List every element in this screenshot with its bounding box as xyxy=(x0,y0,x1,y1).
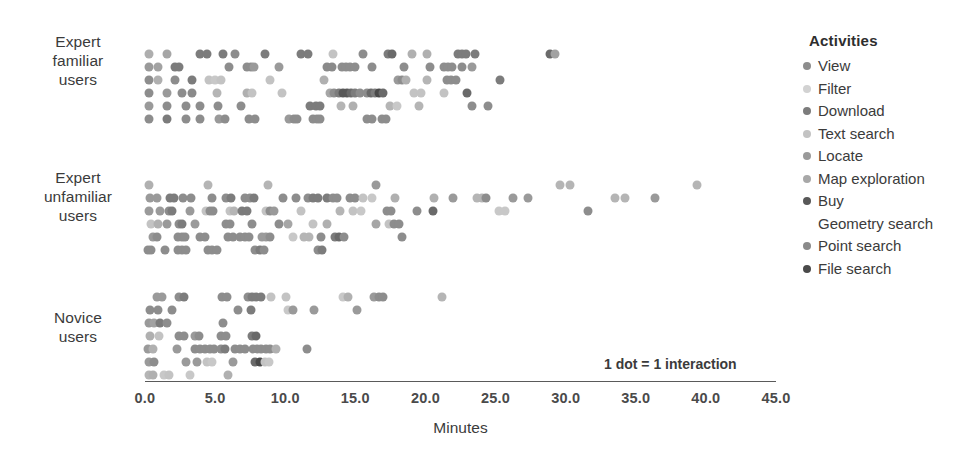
data-dot xyxy=(584,207,593,216)
data-dot xyxy=(250,63,259,72)
data-dot xyxy=(162,319,171,328)
data-dot xyxy=(278,89,287,98)
legend-item[interactable]: Point search xyxy=(803,235,963,258)
x-tick-label: 30.0 xyxy=(536,390,596,406)
data-dot xyxy=(318,246,327,255)
legend-label: Download xyxy=(818,103,885,119)
data-dot xyxy=(296,207,305,216)
data-dot xyxy=(150,358,159,367)
group-label-line: Expert xyxy=(18,168,138,187)
legend-item[interactable]: Geometry search xyxy=(803,213,963,236)
data-dot xyxy=(340,233,349,242)
data-dot xyxy=(439,89,448,98)
data-dot xyxy=(274,220,283,229)
data-dot xyxy=(351,63,360,72)
data-dot xyxy=(182,246,191,255)
data-dot xyxy=(154,76,163,85)
group-label-line: unfamiliar xyxy=(18,187,138,206)
data-dot xyxy=(223,371,232,380)
legend-item[interactable]: Locate xyxy=(803,145,963,168)
data-dot xyxy=(180,293,189,302)
data-dot xyxy=(415,102,424,111)
data-dot xyxy=(610,194,619,203)
data-dot xyxy=(556,181,565,190)
data-dot xyxy=(147,246,156,255)
data-dot xyxy=(144,181,153,190)
data-dot xyxy=(495,76,504,85)
data-dot xyxy=(315,102,324,111)
data-dot xyxy=(217,76,226,85)
group-label-line: users xyxy=(18,70,138,89)
legend-label: Geometry search xyxy=(818,216,933,232)
data-dot xyxy=(223,293,232,302)
data-dot xyxy=(212,89,221,98)
data-dot xyxy=(651,194,660,203)
data-dot xyxy=(182,358,191,367)
data-dot xyxy=(353,306,362,315)
legend-items: ViewFilterDownloadText searchLocateMap e… xyxy=(803,55,963,280)
data-dot xyxy=(349,102,358,111)
group-label-line: users xyxy=(18,206,138,225)
data-dot xyxy=(391,194,400,203)
data-dot xyxy=(155,332,164,341)
data-dot xyxy=(162,102,171,111)
data-dot xyxy=(246,306,255,315)
data-dot xyxy=(149,371,158,380)
legend-item[interactable]: Text search xyxy=(803,123,963,146)
x-tick-label: 0.0 xyxy=(115,390,175,406)
legend: Activities ViewFilterDownloadText search… xyxy=(803,32,963,280)
group-label-novice-users: Noviceusers xyxy=(18,308,138,346)
data-dot xyxy=(207,358,216,367)
data-dot xyxy=(200,233,209,242)
data-dot xyxy=(408,50,417,59)
data-dot xyxy=(162,50,171,59)
data-dot xyxy=(359,50,368,59)
data-dot xyxy=(316,233,325,242)
legend-item[interactable]: Map exploration xyxy=(803,168,963,191)
data-dot xyxy=(145,332,154,341)
data-dot xyxy=(212,246,221,255)
data-dot xyxy=(372,181,381,190)
data-dot xyxy=(693,181,702,190)
data-dot xyxy=(171,76,180,85)
data-dot xyxy=(145,207,154,216)
data-dot xyxy=(379,89,388,98)
legend-item[interactable]: View xyxy=(803,55,963,78)
data-dot xyxy=(333,194,342,203)
data-dot xyxy=(438,293,447,302)
data-dot xyxy=(398,233,407,242)
data-dot xyxy=(145,63,154,72)
data-dot xyxy=(284,220,293,229)
data-dot xyxy=(230,50,239,59)
legend-item[interactable]: File search xyxy=(803,258,963,281)
data-dot xyxy=(244,233,253,242)
data-dot xyxy=(195,102,204,111)
data-dot xyxy=(265,358,274,367)
legend-title: Activities xyxy=(809,32,963,49)
legend-item[interactable]: Buy xyxy=(803,190,963,213)
data-dot xyxy=(468,63,477,72)
legend-bullet-icon xyxy=(803,85,811,93)
data-dot xyxy=(180,233,189,242)
legend-bullet-icon xyxy=(803,175,811,183)
data-dot xyxy=(379,293,388,302)
legend-bullet-icon xyxy=(803,130,811,138)
x-axis-line xyxy=(145,381,776,382)
dot-plot-figure: Expertfamiliarusers Expertunfamiliaruser… xyxy=(0,0,972,459)
legend-item[interactable]: Filter xyxy=(803,78,963,101)
data-dot xyxy=(167,306,176,315)
data-dot xyxy=(145,76,154,85)
data-dot xyxy=(401,76,410,85)
legend-item[interactable]: Download xyxy=(803,100,963,123)
data-dot xyxy=(523,194,532,203)
data-dot xyxy=(468,102,477,111)
data-dot xyxy=(368,63,377,72)
group-label-expert-unfamiliar-users: Expertunfamiliarusers xyxy=(18,168,138,225)
data-dot xyxy=(267,293,276,302)
data-dot xyxy=(178,89,187,98)
data-dot xyxy=(426,63,435,72)
data-dot xyxy=(322,220,331,229)
data-dot xyxy=(187,89,196,98)
data-dot xyxy=(417,89,426,98)
data-dot xyxy=(482,194,491,203)
